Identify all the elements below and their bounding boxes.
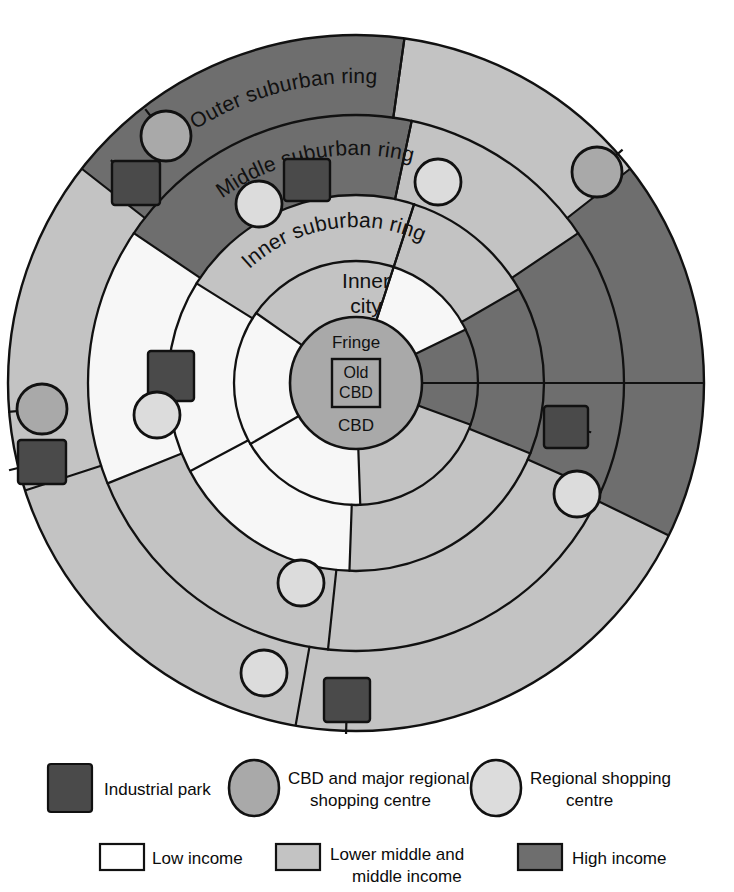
cbd-major-centre-circle bbox=[141, 111, 191, 161]
fringe-label: Fringe bbox=[332, 333, 380, 352]
legend-item-industrial-park[interactable]: Industrial park bbox=[48, 764, 211, 812]
legend-item-high-income[interactable]: High income bbox=[518, 844, 667, 870]
middle-income-label-line1: Lower middle and bbox=[330, 845, 464, 864]
middle-income-swatch bbox=[276, 844, 320, 870]
industrial-park-square bbox=[544, 406, 588, 448]
cbd-major-centre-circle bbox=[17, 384, 67, 434]
industrial-park-square bbox=[324, 678, 370, 722]
cbd-major-centre-circle bbox=[572, 147, 622, 197]
regional-centre-circle bbox=[236, 181, 282, 227]
cbd-core: Fringe Old CBD CBD bbox=[290, 317, 422, 449]
legend-item-low-income[interactable]: Low income bbox=[100, 844, 243, 870]
industrial-park-square bbox=[112, 161, 160, 205]
middle-income-label-line2: middle income bbox=[352, 867, 462, 886]
cbd-label: CBD bbox=[338, 416, 374, 435]
cbd-major-centre-label-line1: CBD and major regional bbox=[288, 769, 469, 788]
regional-centre-circle bbox=[134, 392, 180, 438]
low-income-label: Low income bbox=[152, 849, 243, 868]
industrial-park-park-right[interactable] bbox=[544, 406, 591, 448]
regional-centre-circle bbox=[415, 159, 461, 205]
high-income-swatch bbox=[518, 844, 562, 870]
industrial-park-park-top-centre[interactable] bbox=[284, 156, 330, 201]
old-cbd-label-line1: Old bbox=[344, 364, 369, 381]
cbd-major-centre-centre-right[interactable] bbox=[572, 147, 623, 197]
industrial-park-square bbox=[284, 159, 330, 201]
inner-city-label-line1: Inner bbox=[342, 269, 390, 292]
industrial-park-swatch bbox=[48, 764, 92, 812]
legend-item-regional-centre[interactable]: Regional shopping centre bbox=[471, 760, 671, 816]
urban-structure-diagram-page: Fringe Old CBD CBD Inner city Outer subu… bbox=[0, 0, 734, 892]
legend-item-cbd-major-centre[interactable]: CBD and major regional shopping centre bbox=[229, 760, 469, 816]
regional-centre-circle bbox=[278, 560, 324, 606]
inner-city-label-line2: city bbox=[350, 294, 382, 317]
industrial-park-square bbox=[18, 440, 66, 484]
legend-item-middle-income[interactable]: Lower middle and middle income bbox=[276, 844, 464, 886]
regional-centre-centre-inner-top-left[interactable] bbox=[236, 181, 282, 227]
cbd-major-centre-centre-top-left[interactable] bbox=[141, 109, 191, 161]
regional-centre-label-line2: centre bbox=[566, 791, 613, 810]
regional-centre-label-line1: Regional shopping bbox=[530, 769, 671, 788]
legend-svg: Industrial park CBD and major regional s… bbox=[0, 748, 734, 892]
cbd-major-centre-label-line2: shopping centre bbox=[310, 791, 431, 810]
industrial-park-label: Industrial park bbox=[104, 780, 211, 799]
industrial-park-park-far-left[interactable] bbox=[9, 440, 66, 484]
regional-centre-circle bbox=[554, 471, 600, 517]
legend: Industrial park CBD and major regional s… bbox=[0, 748, 734, 892]
regional-centre-centre-outer-bottom[interactable] bbox=[241, 650, 287, 696]
industrial-park-park-top-left[interactable] bbox=[111, 160, 160, 205]
old-cbd-label-line2: CBD bbox=[339, 384, 373, 401]
low-income-swatch bbox=[100, 844, 144, 870]
regional-centre-circle bbox=[241, 650, 287, 696]
regional-centre-centre-inner-bottom[interactable] bbox=[278, 560, 324, 606]
cbd-major-centre-swatch bbox=[229, 760, 279, 816]
regional-centre-centre-inner-left[interactable] bbox=[134, 392, 180, 438]
regional-centre-centre-inner-top[interactable] bbox=[415, 159, 461, 205]
regional-centre-swatch bbox=[471, 760, 521, 816]
regional-centre-centre-inner-right[interactable] bbox=[554, 471, 600, 517]
high-income-label: High income bbox=[572, 849, 667, 868]
